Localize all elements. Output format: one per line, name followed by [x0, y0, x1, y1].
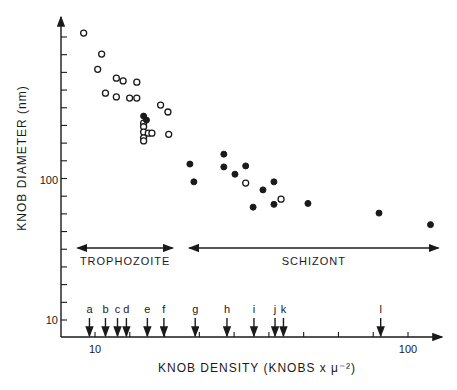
- open-data-point: [81, 30, 87, 36]
- arrow-label-k: k: [281, 303, 287, 315]
- arrow-label-g: g: [192, 303, 198, 315]
- filled-data-point: [243, 163, 249, 169]
- y-tick-label: 10: [46, 314, 58, 326]
- open-data-point: [278, 196, 284, 202]
- scatter-plot: 10100 10100 TROPHOZOITESCHIZONT abcdefgh…: [0, 0, 457, 390]
- arrow-label-j: j: [273, 303, 276, 315]
- filled-data-point: [143, 117, 149, 123]
- filled-data-point: [187, 161, 193, 167]
- arrow-label-d: d: [123, 303, 129, 315]
- filled-data-point: [260, 187, 266, 193]
- open-data-point: [243, 180, 249, 186]
- filled-data-point: [271, 179, 277, 185]
- open-data-point: [113, 75, 119, 81]
- x-tick-label: 10: [89, 343, 101, 355]
- chart: 10100 10100 TROPHOZOITESCHIZONT abcdefgh…: [0, 0, 457, 390]
- arrow-label-a: a: [86, 303, 93, 315]
- axes: [61, 17, 442, 337]
- open-data-point: [99, 51, 105, 57]
- filled-data-point: [427, 222, 433, 228]
- y-tick-label: 100: [40, 174, 58, 186]
- open-data-point: [141, 138, 147, 144]
- y-axis-ticks: 10100: [40, 37, 67, 326]
- open-data-point: [134, 95, 140, 101]
- x-axis-ticks: 10100: [89, 332, 417, 355]
- filled-data-point: [305, 200, 311, 206]
- arrow-label-b: b: [102, 303, 108, 315]
- open-data-point: [165, 109, 171, 115]
- open-data-point: [113, 94, 119, 100]
- data-points: [81, 30, 434, 228]
- phase-label-schizont: SCHIZONT: [282, 255, 346, 267]
- phase-annotations: TROPHOZOITESCHIZONT: [78, 248, 439, 267]
- filled-data-point: [221, 151, 227, 157]
- open-data-point: [95, 66, 101, 72]
- arrow-label-f: f: [162, 303, 166, 315]
- x-axis-title: KNOB DENSITY (KNOBS x μ⁻²): [158, 361, 356, 375]
- arrow-label-c: c: [115, 303, 121, 315]
- arrow-label-h: h: [224, 303, 230, 315]
- filled-data-point: [250, 204, 256, 210]
- phase-label-trophozoite: TROPHOZOITE: [80, 255, 170, 267]
- open-data-point: [120, 78, 126, 84]
- filled-data-point: [191, 179, 197, 185]
- x-tick-label: 100: [399, 343, 417, 355]
- open-data-point: [134, 79, 140, 85]
- open-data-point: [127, 95, 133, 101]
- filled-data-point: [271, 201, 277, 207]
- y-axis-title: KNOB DIAMETER (nm): [15, 85, 29, 230]
- open-data-point: [158, 102, 164, 108]
- open-data-point: [102, 90, 108, 96]
- arrow-label-l: l: [379, 303, 381, 315]
- arrow-label-e: e: [144, 303, 150, 315]
- arrow-label-i: i: [253, 303, 255, 315]
- open-data-point: [166, 131, 172, 137]
- filled-data-point: [232, 171, 238, 177]
- filled-data-point: [376, 210, 382, 216]
- filled-data-point: [221, 164, 227, 170]
- open-data-point: [149, 130, 155, 136]
- marker-arrows: abcdefghijkl: [86, 303, 382, 336]
